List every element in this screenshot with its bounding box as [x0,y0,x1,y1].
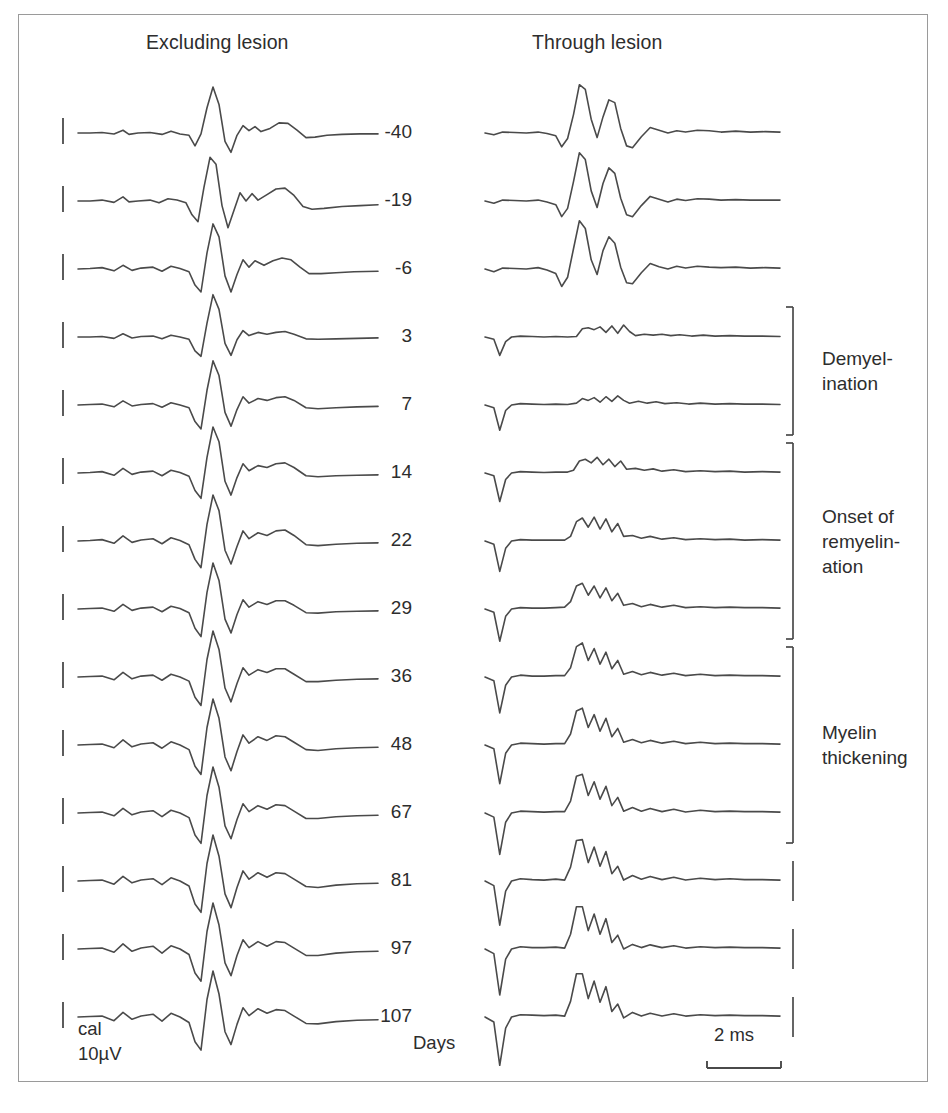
day-label-36: 36 [340,665,412,687]
trace-left-day-22 [78,495,378,568]
day-label-97: 97 [340,937,412,959]
day-label-67: 67 [340,801,412,823]
trace-left-day--19 [78,157,378,227]
time-scale-label: 2 ms [714,1022,754,1047]
bracket-3 [786,647,793,843]
day-label-29: 29 [340,597,412,619]
trace-left-day-107 [78,971,378,1050]
figure-root: Excluding lesion Through lesion -40-19-6… [0,0,948,1113]
annotation-1: Demyel- ination [822,346,893,396]
trace-left-day-29 [78,563,378,637]
trace-right-day-14 [485,457,780,501]
calibration-label: cal 10µV [78,1016,122,1066]
trace-left-day--6 [78,224,378,292]
trace-right-day-107 [485,974,780,1066]
trace-left-day-97 [78,903,378,981]
bracket-1 [786,307,793,435]
trace-right-day-97 [485,907,780,995]
day-label-14: 14 [340,461,412,483]
trace-left-day--40 [78,87,378,152]
day-label--19: -19 [340,189,412,211]
day-label-81: 81 [340,869,412,891]
trace-right-day-36 [485,643,780,713]
trace-right-day-81 [485,840,780,926]
day-label-48: 48 [340,733,412,755]
days-axis-label: Days [413,1030,455,1055]
day-label--40: -40 [340,121,412,143]
trace-right-day-29 [485,583,780,641]
trace-right-day-22 [485,517,780,571]
day-label-7: 7 [340,393,412,415]
time-scale-bar [707,1061,781,1068]
bracket-2 [786,443,793,639]
day-label--6: -6 [340,257,412,279]
annotation-3: Myelin thickening [822,720,908,770]
trace-right-day--40 [485,85,780,148]
waveform-canvas [0,0,948,1113]
trace-left-day-36 [78,631,378,706]
trace-right-day-48 [485,708,780,783]
trace-right-day--19 [485,153,780,217]
day-label-22: 22 [340,529,412,551]
day-label-3: 3 [340,325,412,347]
day-label-107: 107 [340,1005,412,1027]
annotation-2: Onset of remyelin- ation [822,504,900,579]
trace-right-day-7 [485,396,780,431]
trace-left-day-81 [78,835,378,912]
trace-left-day-14 [78,427,378,498]
trace-right-day-3 [485,325,780,355]
trace-left-day-48 [78,699,378,774]
trace-left-day-7 [78,361,378,429]
trace-right-day--6 [485,221,780,287]
trace-left-day-3 [78,295,378,357]
trace-left-day-67 [78,767,378,843]
trace-right-day-67 [485,774,780,854]
